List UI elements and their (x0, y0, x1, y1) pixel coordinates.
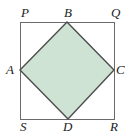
vertex-label-q: Q (111, 6, 120, 19)
vertex-label-a: A (6, 63, 14, 76)
inner-square-abcd (20, 22, 114, 119)
figure-canvas (0, 0, 127, 136)
vertex-label-s: S (20, 120, 27, 133)
vertex-label-d: D (63, 120, 72, 133)
vertex-label-r: R (110, 120, 118, 133)
vertex-label-c: C (116, 63, 125, 76)
vertex-label-p: P (21, 6, 29, 19)
geometry-figure: P B Q A C S D R (0, 0, 127, 136)
vertex-label-b: B (64, 6, 72, 19)
